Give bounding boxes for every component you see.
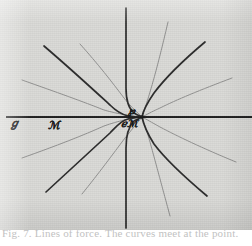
figure-root: ℊ ℳ ℘ ℯℳ Fig. 7. Lines of force. The cur…: [0, 0, 252, 246]
label-m: ℳ: [48, 120, 60, 131]
label-cm: ℯℳ: [121, 119, 138, 129]
ray-up-vertical-hooked: [126, 8, 142, 117]
label-g: ℊ: [9, 118, 20, 129]
scanned-plate: ℊ ℳ ℘ ℯℳ: [0, 0, 252, 230]
faint-upper-right-mid: [142, 22, 168, 117]
figure-caption: Fig. 7. Lines of force. The curves meet …: [0, 230, 252, 246]
label-p: ℘: [128, 106, 135, 116]
field-line-diagram: [0, 0, 252, 230]
figure-caption-text: Fig. 7. Lines of force. The curves meet …: [2, 230, 252, 239]
faint-lower-right-mid: [142, 117, 170, 216]
ray-lower-right-steep: [142, 117, 207, 196]
faint-upper-right-shallow: [142, 78, 232, 117]
ray-upper-right-steep: [142, 42, 205, 117]
faint-lower-right-shallow: [142, 117, 236, 162]
convergence-point-marker: [140, 115, 145, 118]
